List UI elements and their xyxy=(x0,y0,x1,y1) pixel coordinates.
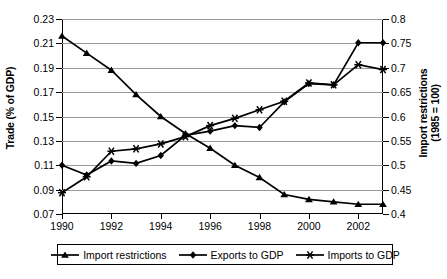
diamond-marker xyxy=(59,162,65,169)
y-axis-right-title: Import restrictions (1985 = 100) xyxy=(409,10,447,215)
y-axis-right-tick-label: 0.65 xyxy=(391,86,411,98)
legend-item[interactable]: Exports to GDP xyxy=(178,249,284,261)
asterisk-marker xyxy=(256,106,264,113)
x-axis-tick xyxy=(309,214,310,219)
x-axis-tick xyxy=(260,214,261,219)
x-axis-tick-label: 2000 xyxy=(297,220,320,232)
plot-area: 0.070.090.110.130.150.170.190.210.23 0.4… xyxy=(62,19,383,214)
y-axis-right-tick xyxy=(383,141,389,142)
y-axis-right-tick-label: 0.55 xyxy=(391,135,411,147)
diamond-marker xyxy=(108,157,114,164)
y-axis-right-tick xyxy=(383,214,389,215)
diamond-marker xyxy=(232,122,238,129)
asterisk-marker xyxy=(132,145,140,152)
y-axis-left-tick-label: 0.23 xyxy=(34,13,54,25)
triangle-marker xyxy=(58,32,66,38)
y-axis-right-title-line2: (1985 = 100) xyxy=(429,68,441,157)
x-axis-tick-label: 1998 xyxy=(248,220,271,232)
asterisk-marker xyxy=(231,115,239,122)
x-axis-tick xyxy=(161,214,162,219)
y-axis-right-tick xyxy=(383,190,389,191)
x-axis-tick-label: 1996 xyxy=(198,220,221,232)
chart-legend: Import restrictionsExports to GDPImports… xyxy=(57,244,393,265)
y-axis-left-tick-label: 0.11 xyxy=(34,159,54,171)
y-axis-right-tick-label: 0.4 xyxy=(391,208,406,220)
y-axis-right-tick-label: 0.8 xyxy=(391,13,406,25)
y-axis-right-tick-label: 0.7 xyxy=(391,62,406,74)
y-axis-left-title-text: Trade (% of GDP) xyxy=(4,66,16,149)
diamond-marker xyxy=(189,251,195,258)
legend-item-label: Import restrictions xyxy=(83,249,166,261)
y-axis-right-tick-label: 0.75 xyxy=(391,37,411,49)
x-axis-tick xyxy=(111,214,112,219)
y-axis-right-tick-label: 0.5 xyxy=(391,159,406,171)
y-axis-left-tick-label: 0.19 xyxy=(34,62,54,74)
legend-item-label: Imports to GDP xyxy=(328,249,400,261)
y-axis-left-title: Trade (% of GDP) xyxy=(0,0,21,215)
y-axis-right-tick-label: 0.6 xyxy=(391,111,406,123)
x-axis-tick-label: 1992 xyxy=(100,220,123,232)
legend-diamond-icon xyxy=(178,249,208,261)
legend-asterisk-icon xyxy=(295,249,325,261)
y-axis-right-tick xyxy=(383,165,389,166)
series-line-import-restrictions xyxy=(62,36,383,204)
triangle-marker xyxy=(206,145,214,151)
y-axis-left-tick-label: 0.15 xyxy=(34,111,54,123)
x-axis-tick xyxy=(358,214,359,219)
diamond-marker xyxy=(380,39,386,46)
y-axis-left-tick-label: 0.09 xyxy=(34,184,54,196)
asterisk-marker xyxy=(306,251,314,258)
y-axis-left-tick-label: 0.21 xyxy=(34,37,54,49)
y-axis-left-tick-label: 0.13 xyxy=(34,135,54,147)
x-axis-tick xyxy=(210,214,211,219)
x-axis-tick-label: 2002 xyxy=(347,220,370,232)
legend-item[interactable]: Imports to GDP xyxy=(295,249,400,261)
x-axis-tick-label: 1994 xyxy=(149,220,172,232)
chart-container: Trade (% of GDP) Import restrictions (19… xyxy=(0,0,447,279)
legend-triangle-icon xyxy=(50,249,80,261)
y-axis-right-tick xyxy=(383,117,389,118)
x-axis-tick xyxy=(62,214,63,219)
y-axis-left-tick-label: 0.07 xyxy=(34,208,54,220)
legend-item[interactable]: Import restrictions xyxy=(50,249,166,261)
data-series-layer xyxy=(62,19,383,214)
y-axis-right-tick-label: 0.45 xyxy=(391,184,411,196)
asterisk-marker xyxy=(157,140,165,147)
series-line-exports-to-gdp xyxy=(62,43,383,175)
diamond-marker xyxy=(133,160,139,167)
y-axis-left-tick-label: 0.17 xyxy=(34,86,54,98)
y-axis-right-title-line1: Import restrictions xyxy=(417,68,429,157)
y-axis-right-tick xyxy=(383,19,389,20)
y-axis-right-tick xyxy=(383,92,389,93)
x-axis-tick-label: 1990 xyxy=(50,220,73,232)
legend-item-label: Exports to GDP xyxy=(211,249,284,261)
